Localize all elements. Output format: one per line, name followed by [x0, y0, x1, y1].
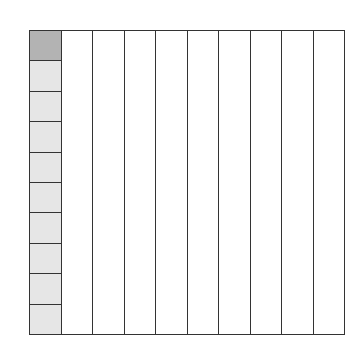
grid-column	[188, 31, 220, 334]
grid-column	[156, 31, 188, 334]
grid-cell	[30, 122, 61, 152]
grid-cell	[30, 305, 61, 334]
grid-column	[219, 31, 251, 334]
hundred-grid	[29, 30, 345, 335]
grid-column	[314, 31, 345, 334]
grid-cell-shaded	[30, 31, 61, 61]
grid-cell	[30, 153, 61, 183]
grid-column	[251, 31, 283, 334]
grid-cell	[30, 244, 61, 274]
grid-column	[125, 31, 157, 334]
grid-column-1	[30, 31, 62, 334]
grid-cell	[30, 92, 61, 122]
grid-cell	[30, 274, 61, 304]
grid-column	[62, 31, 94, 334]
grid-column	[282, 31, 314, 334]
grid-column	[93, 31, 125, 334]
grid-cell	[30, 183, 61, 213]
grid-cell	[30, 61, 61, 91]
grid-cell	[30, 213, 61, 243]
